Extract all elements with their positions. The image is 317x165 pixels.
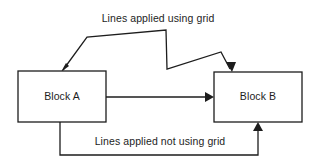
diagram-svg: Lines applied using grid Block A Block B… bbox=[0, 0, 317, 165]
block-b-label: Block B bbox=[240, 90, 276, 102]
grid-connector-line bbox=[63, 30, 230, 70]
diagram-canvas: Lines applied using grid Block A Block B… bbox=[0, 0, 317, 165]
grid-connector-arrowhead-b bbox=[226, 62, 236, 72]
free-connector-arrowhead bbox=[253, 122, 263, 131]
block-a-label: Block A bbox=[44, 90, 80, 102]
caption-top: Lines applied using grid bbox=[102, 12, 215, 24]
direct-connector-arrowhead bbox=[205, 92, 214, 102]
caption-bottom: Lines applied not using grid bbox=[95, 135, 226, 147]
